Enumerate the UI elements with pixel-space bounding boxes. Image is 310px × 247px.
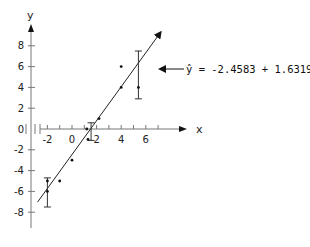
x-axis: x -20246: [35, 123, 203, 145]
x-axis-label: x: [196, 123, 203, 136]
x-tick-label: 6: [143, 134, 149, 145]
equation-annotation: ŷ = -2.4583 + 1.6319x: [160, 63, 310, 75]
data-point: [98, 117, 101, 120]
data-point: [46, 190, 49, 193]
data-point: [87, 138, 90, 141]
y-axis: y 86420-2-4-6-8: [14, 9, 35, 228]
x-tick-label: 0: [69, 134, 75, 145]
regression-equation: ŷ = -2.4583 + 1.6319x: [186, 63, 310, 75]
y-axis-label: y: [27, 9, 34, 22]
data-point: [85, 128, 88, 131]
data-point: [71, 159, 74, 162]
data-point: [58, 180, 61, 183]
x-tick-label: -2: [42, 134, 52, 145]
y-axis-arrow-icon: [28, 24, 34, 32]
data-point: [46, 180, 49, 183]
y-tick-label: -6: [14, 186, 24, 197]
y-tick-label: 2: [18, 103, 24, 114]
y-tick-label: -8: [14, 207, 24, 218]
y-tick-label: -2: [14, 144, 24, 155]
regression-chart: y 86420-2-4-6-8 x -20246 ŷ = -2.4583 + 1…: [0, 0, 310, 247]
x-axis-arrow-icon: [179, 126, 187, 132]
y-tick-label: 8: [18, 40, 24, 51]
x-tick-label: 2: [93, 134, 99, 145]
data-point: [137, 86, 140, 89]
data-point: [120, 65, 123, 68]
y-tick-label: 0: [18, 124, 24, 135]
x-tick-label: 4: [118, 134, 124, 145]
y-tick-label: 4: [18, 82, 24, 93]
y-tick-label: 6: [18, 61, 24, 72]
y-tick-label: -4: [14, 165, 24, 176]
data-point: [120, 86, 123, 89]
